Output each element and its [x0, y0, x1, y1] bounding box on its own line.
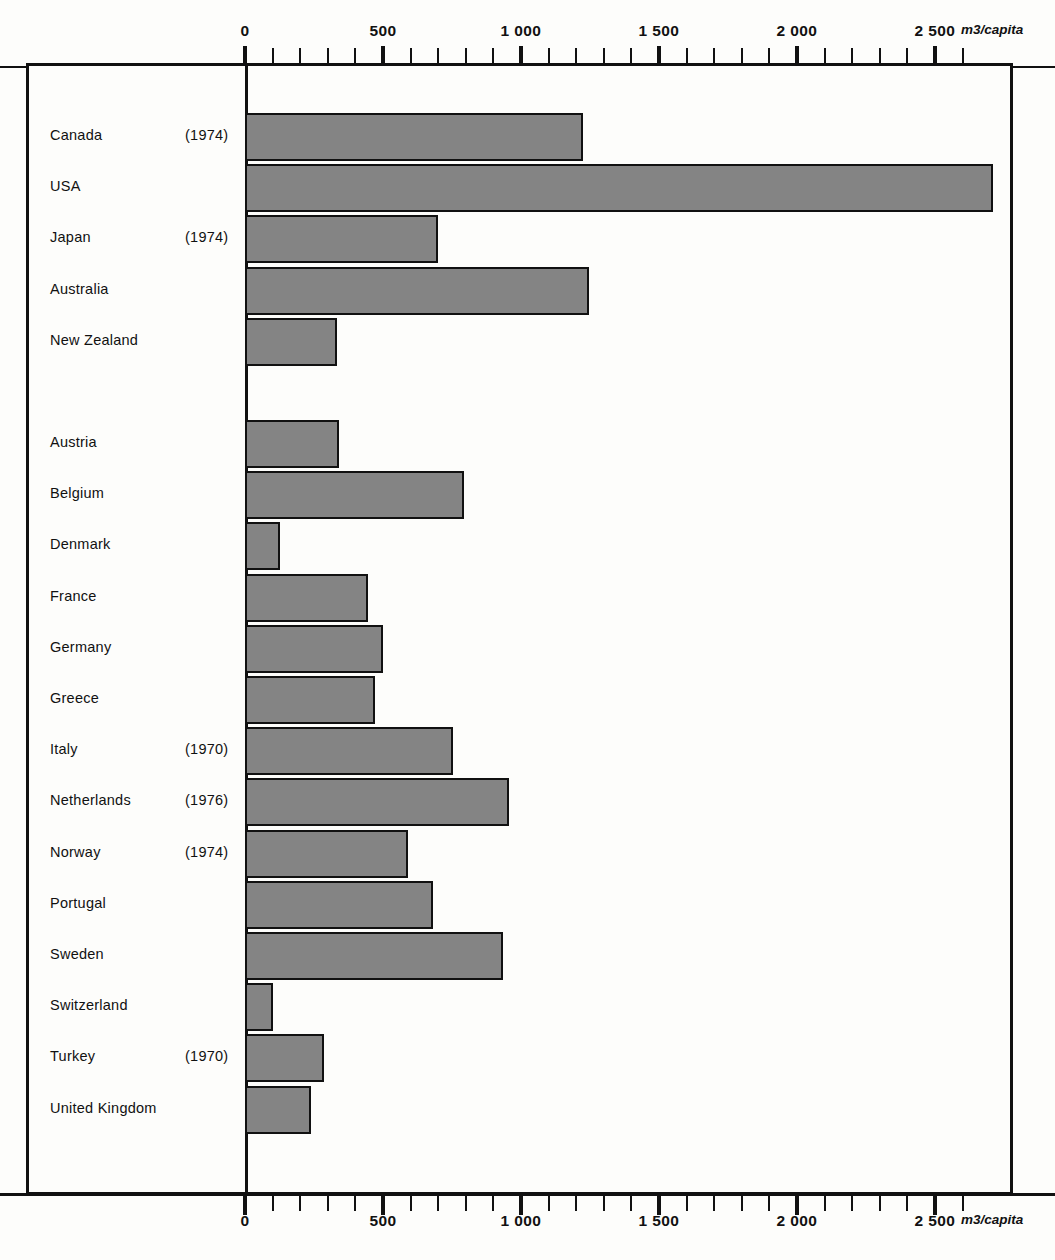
axis-minor-tick [686, 1195, 688, 1211]
country-label: France [50, 588, 97, 604]
axis-minor-tick [962, 1195, 964, 1211]
country-label: Germany [50, 639, 111, 655]
country-label: United Kingdom [50, 1100, 157, 1116]
country-label: Greece [50, 690, 99, 706]
value-bar [245, 625, 383, 673]
country-label: Turkey [50, 1048, 95, 1064]
country-label: Canada [50, 127, 102, 143]
year-annotation: (1974) [185, 127, 228, 143]
country-label: Italy [50, 741, 78, 757]
axis-tick-label: 500 [369, 22, 396, 40]
country-label: Sweden [50, 946, 104, 962]
year-annotation: (1974) [185, 229, 228, 245]
axis-minor-tick [354, 1195, 356, 1211]
country-label: Australia [50, 281, 109, 297]
year-annotation: (1974) [185, 844, 228, 860]
axis-minor-tick [824, 1195, 826, 1211]
year-annotation: (1970) [185, 741, 228, 757]
value-bar [245, 574, 368, 622]
plot-frame [26, 63, 1013, 1195]
axis-minor-tick [713, 1195, 715, 1211]
axis-minor-tick [437, 1195, 439, 1211]
value-bar [245, 215, 438, 263]
axis-tick-label: 2 000 [777, 1212, 818, 1230]
bottom-axis-labels: 05001 0001 5002 0002 500m3/capita [0, 1212, 1055, 1236]
value-bar [245, 1034, 324, 1082]
axis-minor-tick [465, 1195, 467, 1211]
axis-minor-tick [410, 1195, 412, 1211]
country-label: Norway [50, 844, 101, 860]
country-label: Netherlands [50, 792, 131, 808]
value-bar [245, 267, 589, 315]
axis-minor-tick [768, 1195, 770, 1211]
year-annotation: (1970) [185, 1048, 228, 1064]
value-bar [245, 830, 408, 878]
top-axis-labels: 05001 0001 5002 0002 500m3/capita [0, 22, 1055, 46]
axis-minor-tick [327, 1195, 329, 1211]
value-bar [245, 778, 509, 826]
axis-tick-label: 1 000 [501, 22, 542, 40]
value-bar [245, 676, 375, 724]
axis-unit-label: m3/capita [961, 22, 1023, 37]
country-label: Austria [50, 434, 97, 450]
axis-tick-label: 2 500 [915, 22, 956, 40]
value-bar [245, 164, 993, 212]
axis-minor-tick [879, 1195, 881, 1211]
axis-tick-label: 0 [240, 1212, 249, 1230]
country-label: Portugal [50, 895, 106, 911]
axis-tick-label: 2 000 [777, 22, 818, 40]
axis-tick-label: 500 [369, 1212, 396, 1230]
axis-tick-label: 1 500 [639, 22, 680, 40]
axis-minor-tick [299, 1195, 301, 1211]
axis-minor-tick [548, 1195, 550, 1211]
axis-tick-label: 2 500 [915, 1212, 956, 1230]
value-bar [245, 932, 503, 980]
axis-tick-label: 1 500 [639, 1212, 680, 1230]
country-label: New Zealand [50, 332, 138, 348]
axis-tick-label: 1 000 [501, 1212, 542, 1230]
value-bar [245, 881, 433, 929]
year-annotation: (1976) [185, 792, 228, 808]
axis-minor-tick [492, 1195, 494, 1211]
country-label: Belgium [50, 485, 104, 501]
value-bar [245, 727, 453, 775]
axis-minor-tick [741, 1195, 743, 1211]
axis-minor-tick [575, 1195, 577, 1211]
axis-minor-tick [272, 1195, 274, 1211]
axis-minor-tick [603, 1195, 605, 1211]
value-bar [245, 471, 464, 519]
value-bar [245, 420, 339, 468]
axis-minor-tick [851, 1195, 853, 1211]
axis-minor-tick [906, 1195, 908, 1211]
bottom-axis-ticks [0, 1193, 1055, 1213]
value-bar [245, 983, 273, 1031]
chart-page: 05001 0001 5002 0002 500m3/capita Canada… [0, 0, 1055, 1260]
country-label: Denmark [50, 536, 111, 552]
axis-unit-label: m3/capita [961, 1212, 1023, 1227]
value-bar [245, 318, 337, 366]
value-bar [245, 113, 583, 161]
value-bar [245, 522, 280, 570]
axis-rule [0, 1193, 1055, 1196]
country-label: USA [50, 178, 81, 194]
axis-tick-label: 0 [240, 22, 249, 40]
value-bar [245, 1086, 311, 1134]
country-label: Switzerland [50, 997, 128, 1013]
country-label: Japan [50, 229, 91, 245]
axis-minor-tick [630, 1195, 632, 1211]
